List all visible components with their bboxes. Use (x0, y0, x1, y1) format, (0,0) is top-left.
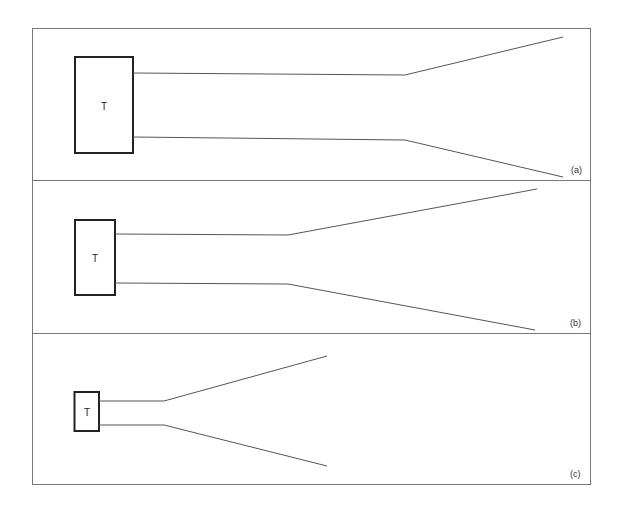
panel-label-b: (b) (570, 318, 581, 328)
panel-c (75, 356, 328, 466)
horn-lower-b (115, 283, 535, 330)
panel-b (75, 189, 537, 330)
box-label-c: T (84, 407, 90, 418)
box-label-b: T (92, 253, 98, 264)
horn-upper-b (115, 189, 537, 235)
panel-label-c: (c) (570, 469, 581, 479)
panel-label-a: (a) (571, 165, 582, 175)
horn-lower-a (133, 137, 563, 177)
panel-a (75, 37, 563, 177)
box-label-a: T (101, 101, 107, 112)
horn-upper-a (133, 37, 563, 75)
horn-lower-c (99, 425, 327, 466)
horn-upper-c (99, 356, 327, 401)
